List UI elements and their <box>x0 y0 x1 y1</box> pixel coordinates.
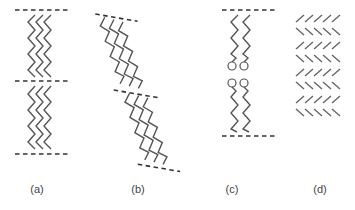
headgroup-circle <box>240 62 248 70</box>
headgroup-circle <box>228 62 236 70</box>
zigzag-chains-upper <box>28 15 51 77</box>
dashed-boundaries-tilted <box>90 2 186 183</box>
panel-b-tilted-bilayer <box>90 2 186 183</box>
panel-d-herringbone <box>296 15 340 116</box>
zigzag-chains-upper <box>98 12 144 93</box>
panel-label-a: (a) <box>30 183 43 195</box>
lower-chains <box>231 87 250 132</box>
panel-c-headgroup-layers <box>222 10 276 136</box>
upper-chains <box>231 15 250 62</box>
panel-label-c: (c) <box>226 183 239 195</box>
panel-label-b: (b) <box>131 183 144 195</box>
zigzag-chains-lower <box>28 86 51 149</box>
headgroup-circle <box>240 79 248 87</box>
headgroup-circle <box>228 79 236 87</box>
zigzag-chains-lower <box>123 88 169 169</box>
panel-label-d: (d) <box>313 183 326 195</box>
diagram-canvas <box>0 0 355 210</box>
panel-a-bilayer <box>15 10 68 154</box>
